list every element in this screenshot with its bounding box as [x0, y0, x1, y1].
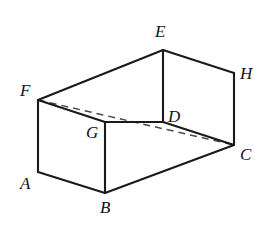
prism-wireframe [0, 0, 274, 227]
edge-AB [38, 172, 105, 193]
vertex-label-c: C [240, 146, 251, 163]
edge-FG [38, 100, 105, 122]
solid-edge-group [38, 50, 234, 193]
vertex-label-e: E [155, 23, 165, 40]
vertex-label-d: D [168, 108, 180, 125]
vertex-label-f: F [20, 82, 30, 99]
vertex-label-b: B [100, 199, 110, 216]
edge-EH [163, 50, 234, 73]
geometry-figure: ABCDEFGH [0, 0, 274, 227]
edge-FE [38, 50, 163, 100]
edge-BC [105, 145, 234, 193]
vertex-label-g: G [86, 124, 98, 141]
vertex-label-a: A [20, 175, 30, 192]
vertex-label-h: H [240, 65, 252, 82]
